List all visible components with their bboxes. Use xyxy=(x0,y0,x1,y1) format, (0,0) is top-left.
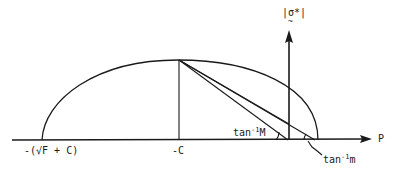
leader-line-m xyxy=(308,141,322,155)
tick-left-end: -(√F + C) xyxy=(24,146,78,156)
angle-label-m: tan-1m xyxy=(323,155,356,165)
yield-ellipse xyxy=(42,60,318,140)
sigma-axis-label: |σ*| ~ xyxy=(282,8,306,18)
slope-line-inner xyxy=(179,60,289,124)
p-axis xyxy=(12,139,364,140)
angle-label-M: tan-1M xyxy=(233,128,266,138)
p-axis-label: P xyxy=(378,134,384,144)
tilde-mark: ~ xyxy=(288,18,293,26)
tick-center: -C xyxy=(172,146,184,156)
